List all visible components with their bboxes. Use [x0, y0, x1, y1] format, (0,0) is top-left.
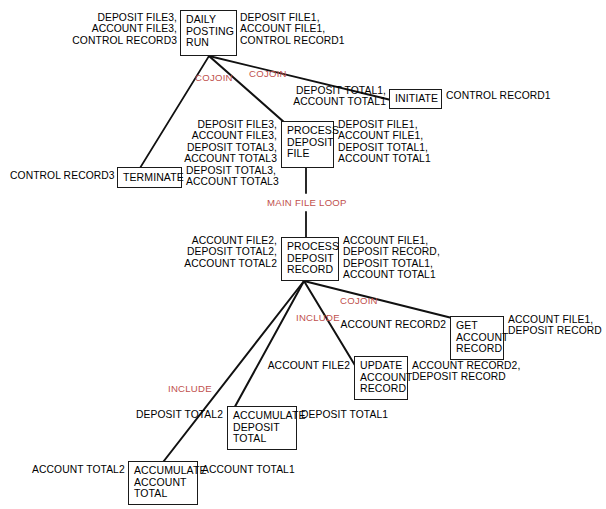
- data-label-dpr-in: DEPOSIT FILE3, ACCOUNT FILE3, CONTROL RE…: [60, 12, 177, 46]
- node-get-account-record[interactable]: GET ACCOUNT RECORD: [450, 316, 504, 360]
- node-line: TOTAL: [233, 433, 292, 445]
- node-line: DAILY: [186, 14, 232, 26]
- node-initiate[interactable]: INITIATE: [389, 89, 442, 109]
- node-line: RECORD: [360, 383, 403, 395]
- data-label-gar-out: ACCOUNT FILE1, DEPOSIT RECORD: [508, 314, 606, 337]
- data-label-adt-in: DEPOSIT TOTAL2: [133, 409, 223, 420]
- data-label-initiate-in: DEPOSIT TOTAL1, ACCOUNT TOTAL1: [268, 85, 386, 108]
- node-line: RECORD: [456, 343, 499, 355]
- edge-pdrec-accumulate-deposit-total: [232, 281, 304, 412]
- data-label-aat-in: ACCOUNT TOTAL2: [32, 464, 124, 475]
- data-label-pdrec-out: ACCOUNT FILE1, DEPOSIT RECORD, DEPOSIT T…: [343, 235, 468, 281]
- node-line: RUN: [186, 37, 232, 49]
- node-update-account-record[interactable]: UPDATE ACCOUNT RECORD: [354, 356, 408, 400]
- data-label-terminate-out: DEPOSIT TOTAL3, ACCOUNT TOTAL3: [186, 165, 306, 188]
- data-label-pdf-in: DEPOSIT FILE3, ACCOUNT FILE3, DEPOSIT TO…: [160, 119, 277, 165]
- node-line: ACCUMULATE: [134, 465, 193, 477]
- node-line: UPDATE: [360, 360, 403, 372]
- node-line: INITIATE: [395, 93, 437, 105]
- node-accumulate-account-total[interactable]: ACCUMULATE ACCOUNT TOTAL: [128, 461, 198, 505]
- node-process-deposit-file[interactable]: PROCESS DEPOSIT FILE: [281, 121, 334, 168]
- data-label-uar-in: ACCOUNT FILE2: [262, 360, 350, 371]
- arc-label-main-file-loop: MAIN FILE LOOP: [267, 197, 347, 208]
- node-line: TOTAL: [134, 488, 193, 500]
- data-label-gar-in: ACCOUNT RECORD2: [330, 319, 446, 330]
- node-line: PROCESS: [287, 125, 329, 137]
- arc-label-cojoin-1: COJOIN: [195, 72, 233, 83]
- arc-label-cojoin-3: COJOIN: [340, 295, 378, 306]
- node-daily-posting-run[interactable]: DAILY POSTING RUN: [180, 10, 237, 56]
- data-label-pdf-out: DEPOSIT FILE1, ACCOUNT FILE1, DEPOSIT TO…: [338, 119, 463, 165]
- node-line: RECORD: [287, 264, 334, 276]
- node-line: FILE: [287, 148, 329, 160]
- data-label-terminate-in: CONTROL RECORD3: [10, 170, 113, 181]
- data-label-dpr-out: DEPOSIT FILE1, ACCOUNT FILE1, CONTROL RE…: [240, 12, 380, 46]
- data-label-uar-out: ACCOUNT RECORD2, DEPOSIT RECORD: [412, 360, 532, 383]
- arc-label-include-1: INCLUDE: [296, 312, 340, 323]
- node-accumulate-deposit-total[interactable]: ACCUMULATE DEPOSIT TOTAL: [227, 406, 297, 450]
- node-line: ACCUMULATE: [233, 410, 292, 422]
- node-line: GET: [456, 320, 499, 332]
- node-line: PROCESS: [287, 241, 334, 253]
- node-terminate[interactable]: TERMINATE: [117, 167, 182, 188]
- data-label-pdrec-in: ACCOUNT FILE2, DEPOSIT TOTAL2, ACCOUNT T…: [160, 235, 277, 269]
- arc-label-include-2: INCLUDE: [168, 383, 212, 394]
- node-process-deposit-record[interactable]: PROCESS DEPOSIT RECORD: [281, 237, 339, 281]
- data-label-adt-out: DEPOSIT TOTAL1: [301, 409, 411, 420]
- data-label-initiate-out: CONTROL RECORD1: [446, 90, 576, 101]
- data-label-aat-out: ACCOUNT TOTAL1: [202, 464, 312, 475]
- arc-label-cojoin-2: COJOIN: [249, 68, 287, 79]
- node-line: TERMINATE: [123, 172, 177, 184]
